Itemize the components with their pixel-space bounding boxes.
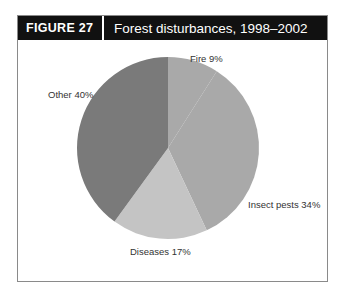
label-insect-pests: Insect pests 34% [248,199,320,210]
label-diseases: Diseases 17% [130,246,191,257]
label-other: Other 40% [48,89,93,100]
label-fire: Fire 9% [190,53,223,64]
